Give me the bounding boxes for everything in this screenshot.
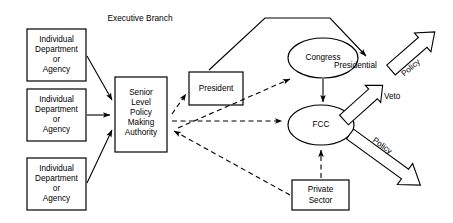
node-senior-level-line-2: Policy [130,108,153,117]
node-private-sector-line-0: Private [308,185,334,194]
edge-label-veto: Veto [384,92,401,101]
block-arrow-policy-lower [342,123,428,195]
node-individual-department-3-line-2: or [53,184,61,193]
node-fcc-label: FCC [313,120,330,129]
edge-dept3-to-senior [87,130,112,183]
node-individual-department-2-line-2: or [53,115,61,124]
node-private-sector[interactable]: Private Sector [292,180,349,210]
node-individual-department-3-line-0: Individual [39,164,74,173]
node-individual-department-2[interactable]: Individual Department or Agency [27,89,86,141]
node-individual-department-1-line-1: Department [35,45,79,54]
edge-private-sector-to-senior [174,131,290,195]
caption-executive-branch: Executive Branch [107,13,173,23]
edge-senior-to-president [172,94,186,114]
block-arrow-veto [336,77,390,129]
node-senior-level-policy-making-authority[interactable]: Senior Level Policy Making Authority [115,77,167,152]
edge-dept1-to-senior [87,56,112,100]
node-individual-department-3[interactable]: Individual Department or Agency [27,158,86,210]
node-individual-department-1-line-3: Agency [43,65,71,74]
edge-label-presidential: Presidential [334,61,377,70]
node-president-label: President [199,84,234,93]
node-individual-department-3-line-3: Agency [43,194,71,203]
node-individual-department-2-line-3: Agency [43,125,71,134]
node-individual-department-1-line-2: or [53,55,61,64]
node-senior-level-line-3: Making [128,118,155,127]
node-president[interactable]: President [189,72,243,105]
node-individual-department-1-line-0: Individual [39,35,74,44]
node-senior-level-line-1: Level [131,98,151,107]
node-senior-level-line-0: Senior [129,88,153,97]
node-congress[interactable]: Congress [288,38,358,78]
node-senior-level-line-4: Authority [125,128,158,137]
node-private-sector-line-1: Sector [309,196,333,205]
node-individual-department-1[interactable]: Individual Department or Agency [27,29,86,81]
node-individual-department-2-line-0: Individual [39,95,74,104]
node-individual-department-2-line-1: Department [35,105,79,114]
node-individual-department-3-line-1: Department [35,174,79,183]
diagram-svg: Executive Branch Individual Department o… [0,0,453,223]
diagram-canvas: Executive Branch Individual Department o… [0,0,453,223]
